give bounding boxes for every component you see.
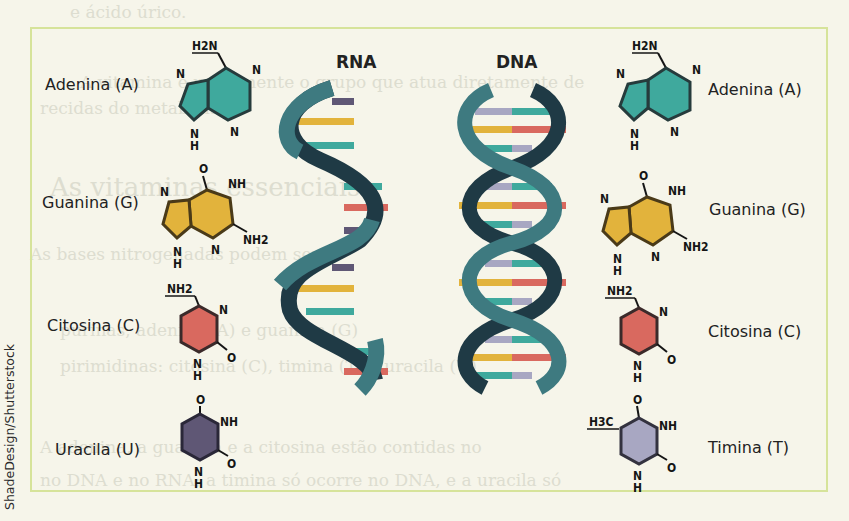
- svg-text:H2N: H2N: [632, 39, 658, 53]
- svg-text:N: N: [651, 250, 660, 264]
- rna-base-uracil: [332, 98, 354, 105]
- svg-text:N: N: [219, 303, 228, 317]
- svg-text:N: N: [176, 67, 185, 81]
- label-thymine-right: Timina (T): [708, 438, 789, 457]
- svg-text:H: H: [630, 139, 639, 153]
- svg-text:NH: NH: [228, 177, 246, 191]
- svg-text:H: H: [173, 257, 182, 271]
- svg-text:N: N: [600, 192, 609, 206]
- svg-text:O: O: [667, 461, 676, 475]
- svg-text:O: O: [199, 162, 208, 176]
- rna-helix: [280, 80, 410, 390]
- thymine-molecule-right: H3C O NH O N H: [585, 392, 695, 492]
- svg-text:NH: NH: [668, 184, 686, 198]
- dna-helix: [445, 88, 580, 388]
- label-cytosine-right: Citosina (C): [708, 322, 801, 341]
- svg-text:H3C: H3C: [589, 415, 614, 429]
- svg-text:H2N: H2N: [192, 39, 218, 53]
- svg-text:NH: NH: [220, 415, 238, 429]
- uracil-molecule-left: O NH O N H: [170, 392, 250, 492]
- cytosine-molecule-left: NH2 N O N H: [165, 280, 245, 385]
- svg-text:N: N: [692, 63, 701, 77]
- svg-text:H: H: [613, 264, 622, 278]
- svg-text:NH2: NH2: [607, 284, 633, 298]
- svg-text:N: N: [670, 125, 679, 139]
- guanine-molecule-left: O N NH NH2 N N H: [155, 160, 275, 270]
- svg-text:H: H: [633, 481, 642, 495]
- svg-text:O: O: [639, 169, 648, 183]
- svg-text:O: O: [667, 353, 676, 367]
- svg-text:O: O: [196, 393, 205, 407]
- rna-title: RNA: [336, 52, 376, 72]
- label-cytosine-left: Citosina (C): [47, 316, 140, 335]
- svg-text:O: O: [227, 457, 236, 471]
- svg-text:H: H: [194, 477, 203, 491]
- svg-text:NH: NH: [659, 419, 677, 433]
- label-adenine-left: Adenina (A): [45, 75, 139, 94]
- dna-title: DNA: [496, 52, 538, 72]
- svg-text:N: N: [252, 63, 261, 77]
- svg-text:N: N: [160, 185, 169, 199]
- svg-text:O: O: [633, 393, 642, 407]
- svg-text:N: N: [616, 67, 625, 81]
- svg-text:N: N: [211, 243, 220, 257]
- label-adenine-right: Adenina (A): [708, 80, 802, 99]
- svg-text:H: H: [633, 371, 642, 385]
- rna-base-adenine: [306, 308, 354, 315]
- label-uracil-left: Uracila (U): [55, 440, 140, 459]
- svg-text:N: N: [659, 305, 668, 319]
- svg-text:H: H: [193, 369, 202, 383]
- guanine-molecule-right: O N NH NH2 N N H: [595, 167, 715, 277]
- image-credit: ShadeDesign/Shutterstock: [2, 344, 17, 510]
- svg-text:N: N: [230, 125, 239, 139]
- adenine-molecule-right: H2N N N N N H: [610, 38, 700, 148]
- svg-text:H: H: [190, 139, 199, 153]
- rna-base-uracil: [332, 264, 354, 271]
- svg-text:NH2: NH2: [683, 240, 709, 254]
- adenine-molecule-left: H2N N N N N H: [170, 38, 260, 148]
- label-guanine-right: Guanina (G): [709, 200, 806, 219]
- svg-text:O: O: [227, 351, 236, 365]
- show-through-text: e ácido úrico.: [70, 2, 186, 22]
- cytosine-molecule-right: NH2 N O N H: [605, 282, 685, 387]
- svg-text:NH2: NH2: [167, 282, 193, 296]
- svg-text:NH2: NH2: [243, 233, 269, 247]
- label-guanine-left: Guanina (G): [42, 193, 139, 212]
